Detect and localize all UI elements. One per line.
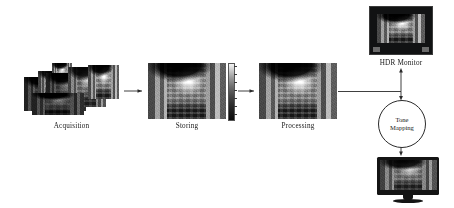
sdr-monitor-screen [380,160,437,191]
hdr-monitor [369,6,433,55]
arrow-storing-to-processing [238,89,254,93]
arrow-branch-to-hdr-monitor [399,68,403,92]
tone-mapping-label-line2: Mapping [390,124,414,132]
hdr-monitor-foot-left [373,47,380,52]
hdr-monitor-foot-right [422,47,429,52]
sdr-monitor-stand-base [393,199,423,203]
tone-mapping-node[interactable]: Tone Mapping [378,100,426,148]
hdr-monitor-screen [377,14,425,43]
sdr-monitor [377,157,439,205]
sdr-monitor-bezel [377,157,439,195]
hdr-monitor-label: HDR Monitor [369,59,433,67]
tone-mapping-label-line1: Tone [395,116,408,124]
arrow-acquisition-to-storing [124,89,142,93]
